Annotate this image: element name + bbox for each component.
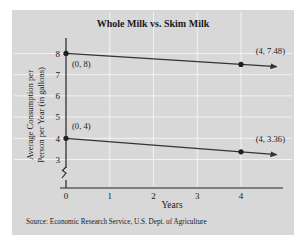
source-note: Source: Economic Research Service, U.S. …	[26, 218, 207, 226]
y-tick-label: 3	[56, 155, 61, 165]
data-point-annotation: (0, 4)	[72, 121, 91, 131]
y-tick-label: 5	[56, 112, 61, 122]
chart-title: Whole Milk vs. Skim Milk	[97, 18, 210, 29]
x-tick-label: 0	[64, 191, 69, 201]
milk-consumption-line-chart: Whole Milk vs. Skim Milk Average Consump…	[0, 0, 306, 241]
data-point-marker	[238, 62, 243, 67]
y-tick-label: 4	[56, 134, 61, 144]
x-tick-label: 3	[195, 191, 200, 201]
y-axis-title-line1: Average Consumption per	[25, 70, 35, 160]
figure-container: Whole Milk vs. Skim Milk Average Consump…	[0, 0, 306, 241]
data-point-annotation: (0, 8)	[72, 59, 91, 69]
x-axis-title: Years	[161, 200, 183, 210]
y-axis-break-icon	[62, 167, 66, 178]
y-tick-labels: 345678	[56, 49, 61, 165]
x-tick-label: 4	[239, 191, 244, 201]
x-tick-label: 2	[151, 191, 156, 201]
data-point-marker	[63, 51, 68, 56]
y-axis-title: Average Consumption per Person per Year …	[25, 67, 46, 163]
y-tick-label: 6	[56, 91, 61, 101]
x-tick-labels: 01234	[64, 191, 244, 201]
x-tick-label: 1	[108, 191, 113, 201]
y-tick-label: 8	[56, 49, 61, 59]
y-axis-title-line2: Person per Year (in gallons)	[36, 67, 46, 163]
series-line-whole-milk	[66, 53, 277, 66]
data-point-marker	[238, 149, 243, 154]
data-point-annotation: (4, 7.48)	[256, 46, 285, 56]
data-point-annotation: (4, 3.36)	[256, 134, 285, 144]
y-tick-label: 7	[56, 70, 61, 80]
data-point-marker	[63, 136, 68, 141]
series-line-skim-milk	[66, 138, 277, 154]
